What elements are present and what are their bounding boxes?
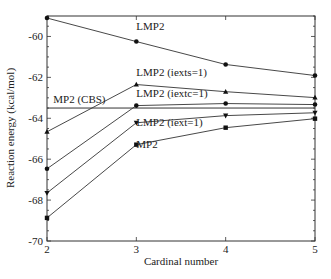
series-annotation: LMP2 (iextc=1) (136, 87, 208, 100)
plot-frame (47, 16, 315, 241)
series-annotation: MP2 (136, 138, 157, 150)
y-axis-label: Reaction energy (kcal/mol) (4, 68, 17, 188)
circle-marker-icon (45, 16, 50, 21)
y-tick-label: -64 (28, 112, 43, 124)
square-marker-icon (45, 216, 49, 220)
x-tick-label: 3 (134, 243, 140, 255)
y-tick-label: -68 (28, 194, 43, 206)
circle-marker-icon (45, 166, 50, 171)
series-annotation: LMP2 (136, 20, 164, 32)
series-annotation: LMP2 (iext=1) (136, 116, 203, 129)
circle-marker-icon (313, 102, 318, 107)
circle-marker-icon (134, 39, 139, 44)
triangle-down-marker-icon (44, 191, 49, 196)
triangle-up-marker-icon (44, 129, 49, 134)
plot-border (47, 16, 315, 241)
y-tick-label: -66 (28, 153, 43, 165)
reaction-energy-chart: 2345-70-68-66-64-62-60 LMP2LMP2 (iexts=1… (0, 0, 331, 279)
y-tick-label: -62 (28, 71, 43, 83)
x-tick-label: 4 (223, 243, 229, 255)
axis-ticks: 2345-70-68-66-64-62-60 (28, 16, 318, 255)
x-tick-label: 5 (312, 243, 318, 255)
series-line (47, 119, 315, 218)
square-marker-icon (223, 125, 227, 129)
y-tick-label: -70 (28, 235, 43, 247)
circle-marker-icon (223, 101, 228, 106)
series-annotation: LMP2 (iexts=1) (136, 66, 207, 79)
circle-marker-icon (134, 103, 139, 108)
circle-marker-icon (223, 62, 228, 67)
x-axis-label: Cardinal number (144, 255, 219, 267)
x-tick-label: 2 (44, 243, 50, 255)
circle-marker-icon (313, 73, 318, 78)
square-marker-icon (313, 116, 317, 120)
series-annotation: MP2 (CBS) (53, 93, 106, 106)
y-tick-label: -60 (28, 30, 43, 42)
